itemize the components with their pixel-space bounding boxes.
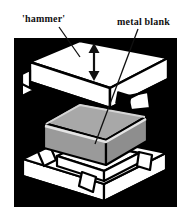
forging-diagram: 'hammer' metal blank bbox=[0, 0, 185, 219]
lower-die-notch-right bbox=[137, 152, 152, 170]
figure-root: 'hammer' metal blank bbox=[0, 0, 185, 219]
label-metal-blank: metal blank bbox=[117, 16, 170, 27]
label-hammer: 'hammer' bbox=[22, 13, 65, 24]
